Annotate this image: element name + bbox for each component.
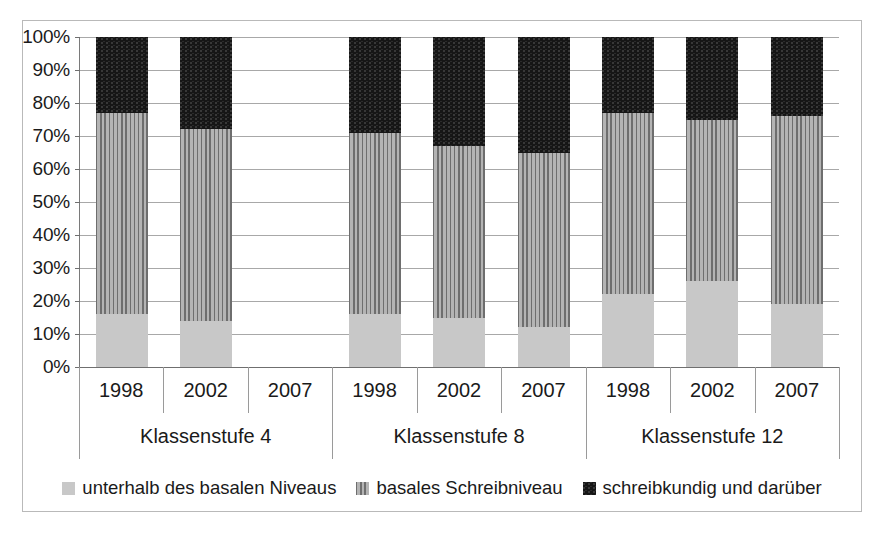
bar-slot [417,37,501,367]
bar-segment-unterhalb-basales-niveau[interactable] [96,314,148,367]
stacked-bar[interactable] [96,37,148,367]
axis-separator [417,367,418,413]
group-label: Klassenstufe 4 [79,413,332,459]
bar-segment-schreibkundig[interactable] [180,37,232,129]
year-label: 2007 [248,367,332,413]
y-axis-label: 30% [33,257,70,279]
legend-label: schreibkundig und darüber [603,477,822,499]
bar-segment-unterhalb-basales-niveau[interactable] [602,294,654,367]
bar-segment-unterhalb-basales-niveau[interactable] [771,304,823,367]
year-label-row: 199820022007199820022007199820022007 [79,367,839,413]
axis-separator [755,367,756,413]
year-label: 1998 [332,367,416,413]
y-axis-label: 20% [33,290,70,312]
axis-separator [163,367,164,413]
axis-separator [332,367,333,413]
y-axis-label: 10% [33,323,70,345]
bar-slot [80,37,164,367]
year-label: 2007 [755,367,839,413]
bar-segment-schreibkundig[interactable] [686,37,738,120]
year-label: 2002 [670,367,754,413]
bar-segment-schreibkundig[interactable] [518,37,570,153]
axis-separator [79,413,80,459]
axis-separator [248,367,249,413]
y-axis-label: 100% [22,26,70,48]
legend-swatch-icon [356,482,369,495]
y-axis-label: 80% [33,92,70,114]
stacked-bar[interactable] [771,37,823,367]
axis-separator [670,367,671,413]
legend-swatch-icon [583,482,596,495]
legend-item[interactable]: basales Schreibniveau [356,477,562,499]
bar-slot [333,37,417,367]
plot-area [79,37,839,367]
bar-segment-schreibkundig[interactable] [602,37,654,113]
legend-swatch-icon [62,482,75,495]
bar-segment-schreibkundig[interactable] [771,37,823,116]
bar-slot [586,37,670,367]
bar-segment-basales-schreibniveau[interactable] [349,133,401,315]
legend-item[interactable]: unterhalb des basalen Niveaus [62,477,336,499]
year-label: 2007 [501,367,585,413]
bar-segment-basales-schreibniveau[interactable] [602,113,654,295]
bar-segment-basales-schreibniveau[interactable] [96,113,148,314]
bar-slot [249,37,333,367]
category-axis: 199820022007199820022007199820022007 Kla… [79,367,839,459]
stacked-bar[interactable] [433,37,485,367]
stacked-bar[interactable] [602,37,654,367]
axis-separator [586,367,587,413]
bar-segment-unterhalb-basales-niveau[interactable] [518,327,570,367]
year-label: 1998 [586,367,670,413]
bar-segment-schreibkundig[interactable] [433,37,485,146]
stacked-bar[interactable] [349,37,401,367]
bar-segment-schreibkundig[interactable] [349,37,401,133]
axis-separator [501,367,502,413]
bar-slot [164,37,248,367]
axis-separator [586,413,587,459]
bar-segment-schreibkundig[interactable] [96,37,148,113]
bar-segment-unterhalb-basales-niveau[interactable] [180,321,232,367]
bar-segment-unterhalb-basales-niveau[interactable] [686,281,738,367]
bar-segment-unterhalb-basales-niveau[interactable] [433,318,485,368]
bar-segment-basales-schreibniveau[interactable] [518,153,570,328]
bar-slot [502,37,586,367]
year-label: 2002 [417,367,501,413]
stacked-bar[interactable] [686,37,738,367]
bar-slot [755,37,839,367]
y-axis-label: 50% [33,191,70,213]
axis-separator [839,413,840,459]
y-axis-label: 0% [43,356,70,378]
y-axis-label: 40% [33,224,70,246]
y-axis-label: 60% [33,158,70,180]
plot-wrapper: 0%10%20%30%40%50%60%70%80%90%100% [79,37,839,367]
legend-item[interactable]: schreibkundig und darüber [583,477,822,499]
year-label: 2002 [163,367,247,413]
group-label: Klassenstufe 12 [586,413,839,459]
bar-segment-basales-schreibniveau[interactable] [686,120,738,282]
chart-legend: unterhalb des basalen Niveausbasales Sch… [23,477,861,499]
stacked-bar[interactable] [180,37,232,367]
stacked-bar[interactable] [518,37,570,367]
group-label: Klassenstufe 8 [332,413,585,459]
axis-separator [839,367,840,413]
bar-segment-unterhalb-basales-niveau[interactable] [349,314,401,367]
bar-slot [670,37,754,367]
axis-separator [79,367,80,413]
legend-label: unterhalb des basalen Niveaus [82,477,336,499]
bar-segment-basales-schreibniveau[interactable] [771,116,823,304]
chart-frame: 0%10%20%30%40%50%60%70%80%90%100% 199820… [22,20,862,512]
y-axis-label: 70% [33,125,70,147]
y-axis-label: 90% [33,59,70,81]
year-label: 1998 [79,367,163,413]
bar-segment-basales-schreibniveau[interactable] [180,129,232,320]
legend-label: basales Schreibniveau [376,477,562,499]
bar-segment-basales-schreibniveau[interactable] [433,146,485,318]
group-label-row: Klassenstufe 4Klassenstufe 8Klassenstufe… [79,413,839,459]
axis-separator [332,413,333,459]
